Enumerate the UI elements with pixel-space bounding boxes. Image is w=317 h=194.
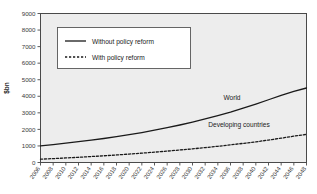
y-axis-tick-label: 0: [32, 159, 36, 166]
y-axis-title: $bn: [3, 82, 11, 93]
y-axis-tick-label: 1000: [22, 142, 36, 149]
legend-label-without-policy-reform: Without policy reform: [92, 38, 154, 46]
chart-container: 0100020003000400050006000700080009000 20…: [0, 0, 317, 194]
y-axis-tick-label: 8000: [22, 26, 36, 33]
legend-label-with-policy-reform: With policy reform: [92, 54, 145, 62]
y-axis-tick-label: 5000: [22, 76, 36, 83]
annotation-world: World: [223, 94, 240, 101]
legend-box: Without policy reform With policy reform: [58, 28, 191, 69]
line-chart: 0100020003000400050006000700080009000 20…: [0, 0, 317, 194]
y-axis-tick-label: 6000: [22, 59, 36, 66]
y-axis-tick-label: 4000: [22, 92, 36, 99]
y-axis-tick-label: 3000: [22, 109, 36, 116]
y-axis-tick-label: 9000: [22, 10, 36, 17]
y-axis-tick-label: 7000: [22, 43, 36, 50]
annotation-developing-countries: Developing countries: [208, 121, 270, 129]
y-axis-tick-label: 2000: [22, 126, 36, 133]
legend-frame: [58, 28, 191, 69]
